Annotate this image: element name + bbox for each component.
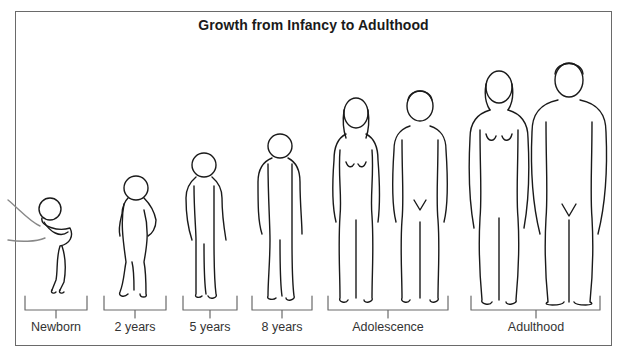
stage-label-5-years: 5 years xyxy=(190,320,231,334)
stage-label-adulthood: Adulthood xyxy=(508,320,564,334)
figure-8-years xyxy=(258,134,302,300)
figure-adult-male xyxy=(531,63,606,305)
stage-label-2-years: 2 years xyxy=(115,320,156,334)
stage-brackets xyxy=(25,296,600,318)
figure-adult-female xyxy=(469,71,529,304)
stage-label-8-years: 8 years xyxy=(262,320,303,334)
figure-adolescent-male xyxy=(393,91,448,302)
figure-newborn xyxy=(8,198,72,293)
figures-illustration xyxy=(0,0,627,360)
figure-adolescent-female xyxy=(333,98,380,302)
stage-label-adolescence: Adolescence xyxy=(352,320,424,334)
figure-2-years xyxy=(119,176,156,297)
figure-5-years xyxy=(186,153,226,298)
stage-label-newborn: Newborn xyxy=(31,320,81,334)
